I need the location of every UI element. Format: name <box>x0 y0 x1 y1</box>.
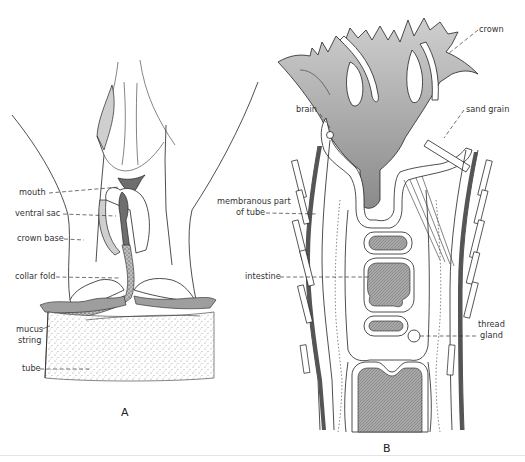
leader-crown-base <box>64 239 84 240</box>
panel-a-drawing <box>12 60 258 381</box>
label-tube: tube <box>22 363 41 373</box>
label-thread-gland-line2: gland <box>480 330 503 340</box>
bottom-divider <box>0 455 525 456</box>
leader-ventral-sac <box>63 214 116 216</box>
panel-label-b: B <box>383 442 391 455</box>
label-ventral-sac: ventral sac <box>15 208 60 218</box>
label-membranous-line2: of tube <box>236 207 265 217</box>
label-membranous-line1: membranous part <box>217 196 291 206</box>
label-crown-base: crown base <box>17 233 64 243</box>
panel-label-a: A <box>121 406 129 419</box>
label-intestine: intestine <box>245 271 281 281</box>
label-crown: crown <box>479 24 504 34</box>
label-mucus-string-line1: mucus <box>16 324 43 334</box>
label-brain: brain <box>296 104 317 114</box>
label-mucus-string-line2: string <box>18 335 42 345</box>
label-mouth: mouth <box>19 187 46 197</box>
thread-gland-shape <box>408 330 420 342</box>
panel-b-drawing <box>278 18 492 432</box>
leader-sand-grain <box>444 110 464 138</box>
leader-collar-fold <box>56 277 120 278</box>
label-thread-gland-line1: thread <box>478 319 505 329</box>
anatomy-figure: mouth ventral sac crown base collar fold… <box>0 0 525 462</box>
label-collar-fold: collar fold <box>15 271 55 281</box>
label-sand-grain: sand grain <box>466 104 509 114</box>
